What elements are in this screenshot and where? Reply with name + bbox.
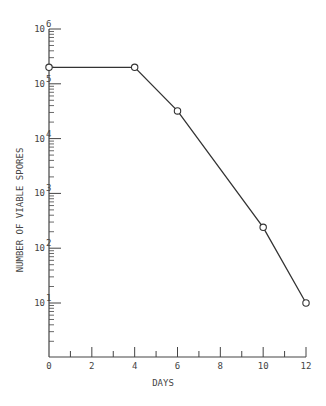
- y-tick-label: 10: [34, 24, 45, 34]
- y-tick-exponent: 4: [46, 129, 51, 139]
- y-tick-label: 10: [34, 79, 45, 89]
- y-tick-label: 10: [34, 298, 45, 308]
- y-tick-label: 10: [34, 243, 45, 253]
- data-point-marker: [303, 300, 309, 306]
- data-point-marker: [174, 108, 180, 114]
- y-tick-exponent: 5: [46, 74, 51, 84]
- y-tick-exponent: 3: [46, 183, 51, 193]
- spore-viability-chart: 106105104103102101024681012: [0, 0, 326, 406]
- y-axis-title: NUMBER OF VIABLE SPORES: [15, 148, 25, 273]
- y-tick-exponent: 6: [46, 19, 51, 29]
- y-tick-exponent: 2: [46, 238, 51, 248]
- x-tick-label: 6: [175, 361, 180, 371]
- x-tick-label: 2: [89, 361, 94, 371]
- x-axis-title: DAYS: [152, 378, 174, 388]
- x-tick-label: 12: [301, 361, 312, 371]
- y-tick-label: 10: [34, 134, 45, 144]
- data-point-marker: [46, 64, 52, 70]
- y-tick-exponent: 1: [46, 293, 51, 303]
- x-tick-label: 0: [46, 361, 51, 371]
- data-line: [49, 67, 306, 303]
- data-point-marker: [131, 64, 137, 70]
- x-tick-label: 4: [132, 361, 137, 371]
- x-tick-label: 10: [258, 361, 269, 371]
- data-point-marker: [260, 224, 266, 230]
- y-tick-label: 10: [34, 188, 45, 198]
- x-tick-label: 8: [218, 361, 223, 371]
